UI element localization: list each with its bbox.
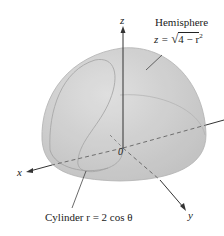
cylinder-label: Cylinder r = 2 cos θ xyxy=(45,211,133,223)
x-axis-label: x xyxy=(17,166,22,178)
origin-label: 0 xyxy=(118,146,123,157)
z-axis-label: z xyxy=(120,14,124,26)
y-axis-back-ext xyxy=(206,120,224,125)
hemisphere-equation: z = √4 − r2 xyxy=(154,31,203,47)
z-axis-arrow xyxy=(121,26,126,33)
x-axis-arrow xyxy=(26,168,33,173)
hemisphere-eq-radicand: 4 − r xyxy=(178,32,199,45)
y-axis xyxy=(160,180,184,208)
hemisphere-eq-exponent: 2 xyxy=(199,32,203,40)
hemisphere-eq-lhs: z = xyxy=(154,33,171,45)
y-axis-label: y xyxy=(188,209,193,221)
x-axis xyxy=(30,165,52,171)
hemisphere-surface xyxy=(42,48,206,181)
hemisphere-title: Hemisphere xyxy=(155,16,208,28)
